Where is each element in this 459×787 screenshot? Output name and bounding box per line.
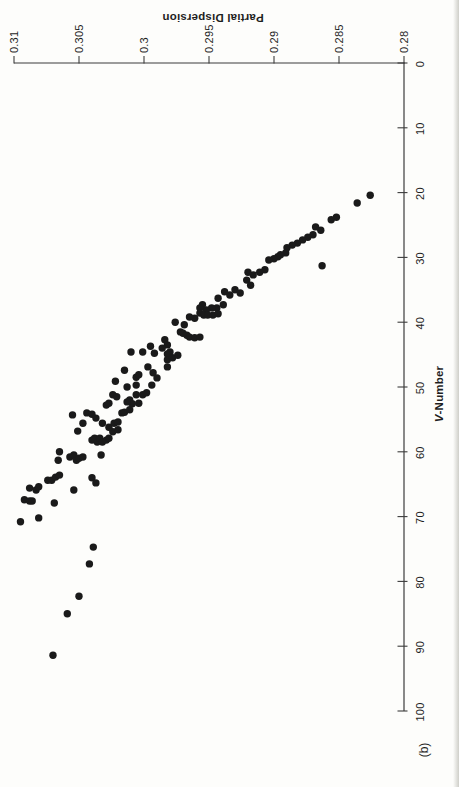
data-point (92, 414, 99, 421)
data-point (172, 319, 179, 326)
data-point (312, 223, 319, 230)
v-tick-label: 60 (414, 446, 426, 459)
data-point (113, 393, 120, 400)
v-tick-label: 90 (414, 641, 426, 654)
data-point (174, 352, 181, 359)
data-point (79, 453, 86, 460)
data-point (79, 420, 86, 427)
v-tick-label: 10 (414, 122, 426, 135)
data-point (265, 256, 272, 263)
data-point (256, 269, 263, 276)
data-point (17, 518, 24, 525)
data-point (148, 381, 155, 388)
data-point (56, 471, 63, 478)
data-point (49, 652, 56, 659)
data-point (74, 427, 81, 434)
data-point (135, 400, 142, 407)
data-point (26, 484, 33, 491)
data-point (237, 289, 244, 296)
data-point (51, 499, 58, 506)
data-point (159, 344, 166, 351)
scatter-plot-figure: 0.310.3050.30.2950.290.2850.28 010203040… (0, 0, 459, 787)
data-point (151, 350, 158, 357)
data-point (220, 301, 227, 308)
v-tick-label: 50 (414, 382, 426, 395)
data-point (133, 381, 140, 388)
data-point (105, 400, 112, 407)
data-point (354, 199, 361, 206)
axes (14, 62, 405, 711)
data-point (133, 391, 140, 398)
data-point (144, 363, 151, 370)
data-point (143, 389, 150, 396)
pd-tick-label: 0.285 (333, 24, 345, 53)
pd-tick-label: 0.28 (398, 31, 410, 53)
data-point (86, 560, 93, 567)
x-axis-title: V-Number (433, 365, 445, 422)
v-tick-label: 0 (414, 61, 426, 67)
pd-tick-label: 0.295 (203, 24, 215, 53)
data-point (247, 282, 254, 289)
y-axis-title: Partial Dispersion (162, 12, 263, 24)
data-point (328, 216, 335, 223)
data-point (121, 367, 128, 374)
data-point (214, 295, 221, 302)
data-point (92, 479, 99, 486)
pd-tick-label: 0.29 (268, 31, 280, 53)
data-point (90, 543, 97, 550)
data-point (112, 378, 119, 385)
pd-tick-label: 0.305 (73, 24, 85, 53)
data-point (318, 262, 325, 269)
x-axis-title-rest: -Number (433, 365, 445, 414)
v-tick-label: 100 (414, 703, 426, 722)
data-point (214, 310, 221, 317)
data-point (123, 383, 130, 390)
data-point (221, 288, 228, 295)
v-tick-label: 40 (414, 317, 426, 330)
data-point (244, 269, 251, 276)
data-point (105, 435, 112, 442)
panel-label: (b) (417, 743, 431, 758)
data-point (186, 313, 193, 320)
data-point (99, 420, 106, 427)
v-tick-label: 30 (414, 252, 426, 265)
v-tick-label: 20 (414, 187, 426, 200)
data-point (126, 406, 133, 413)
data-point (69, 411, 76, 418)
pd-tick-label: 0.3 (138, 37, 150, 53)
data-point (70, 486, 77, 493)
data-point (56, 448, 63, 455)
data-point (64, 610, 71, 617)
data-point (29, 497, 36, 504)
data-point (123, 398, 130, 405)
data-point (75, 593, 82, 600)
data-point (367, 192, 374, 199)
data-point (153, 374, 160, 381)
data-point (139, 348, 146, 355)
data-point (181, 321, 188, 328)
v-number-axis-ticks: 0102030405060708090100 (398, 61, 427, 722)
data-point (55, 457, 62, 464)
pd-tick-label: 0.31 (8, 31, 20, 53)
scatter-points (17, 192, 374, 660)
data-point (196, 333, 203, 340)
data-point (97, 451, 104, 458)
data-point (135, 371, 142, 378)
v-tick-label: 80 (414, 576, 426, 589)
scanned-figure-page: 0.310.3050.30.2950.290.2850.28 010203040… (0, 0, 459, 787)
data-point (35, 514, 42, 521)
page-edge-shadow (453, 0, 459, 787)
data-point (114, 418, 121, 425)
data-point (35, 483, 42, 490)
v-tick-label: 70 (414, 511, 426, 524)
data-point (127, 348, 134, 355)
data-point (147, 343, 154, 350)
data-point (164, 363, 171, 370)
data-point (114, 426, 121, 433)
partial-dispersion-axis-ticks: 0.310.3050.30.2950.290.2850.28 (8, 24, 410, 63)
